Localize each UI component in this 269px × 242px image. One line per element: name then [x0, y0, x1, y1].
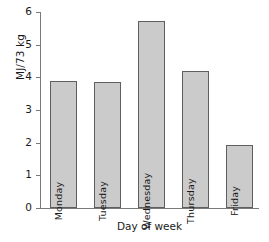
bar: Wednesday: [138, 21, 165, 208]
bar-category-label: Tuesday: [97, 181, 108, 221]
y-axis-tick: 0: [36, 208, 40, 209]
y-axis-tick-label: 4: [25, 70, 32, 83]
y-axis-tick-label: 2: [25, 136, 32, 149]
y-axis-line: [40, 12, 41, 209]
y-axis-tick: 1: [36, 175, 40, 176]
y-axis-tick-label: 1: [25, 168, 32, 181]
bar: Thursday: [182, 71, 209, 208]
bar: Monday: [50, 81, 77, 208]
y-axis-tick-label: 5: [25, 38, 32, 51]
bar: Tuesday: [94, 82, 121, 208]
y-axis-tick-label: 3: [25, 103, 32, 116]
bar-category-label: Thursday: [185, 178, 196, 224]
bar-category-label: Monday: [53, 182, 64, 221]
y-axis-tick-label: 0: [25, 201, 32, 214]
plot-area: 0123456 MondayTuesdayWednesdayThursdayFr…: [40, 12, 259, 209]
y-axis-tick: 2: [36, 143, 40, 144]
y-axis-tick: 5: [36, 45, 40, 46]
bar-chart-figure: MJ/73 kg 0123456 MondayTuesdayWednesdayT…: [0, 0, 269, 242]
bar-category-label: Friday: [229, 186, 240, 216]
x-axis-title: Day of week: [40, 219, 259, 233]
y-axis-tick: 6: [36, 12, 40, 13]
y-axis-tick: 3: [36, 110, 40, 111]
y-axis-tick-label: 6: [25, 5, 32, 18]
bar: Friday: [226, 145, 253, 208]
y-axis-tick: 4: [36, 77, 40, 78]
